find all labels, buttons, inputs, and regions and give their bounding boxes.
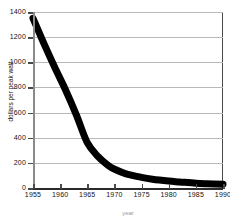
y-tick-mark xyxy=(28,87,33,89)
x-tick-label: 1985 xyxy=(183,191,209,198)
x-tick-label: 1955 xyxy=(20,191,46,198)
chart-figure: 0200400600800100012001400 19551960196519… xyxy=(0,0,230,223)
x-tick-label: 1965 xyxy=(74,191,100,198)
x-tick-label: 1975 xyxy=(129,191,155,198)
x-tick-mark xyxy=(60,184,62,189)
y-tick-label: 1400 xyxy=(0,8,26,15)
plot-area xyxy=(33,12,223,188)
x-tick-mark xyxy=(142,184,144,189)
y-tick-label: 0 xyxy=(0,184,26,191)
x-tick-label: 1970 xyxy=(101,191,127,198)
data-curve xyxy=(33,12,223,188)
y-tick-mark xyxy=(28,12,33,14)
y-tick-mark xyxy=(28,113,33,115)
y-tick-mark xyxy=(28,163,33,165)
x-axis-title: year xyxy=(33,210,223,216)
y-tick-mark xyxy=(28,37,33,39)
y-tick-mark xyxy=(28,138,33,140)
y-axis-line xyxy=(33,12,35,189)
x-tick-mark xyxy=(196,184,198,189)
x-tick-label: 1960 xyxy=(47,191,73,198)
y-tick-mark xyxy=(28,62,33,64)
x-tick-mark xyxy=(114,184,116,189)
y-tick-label: 1200 xyxy=(0,33,26,40)
x-tick-label: 1980 xyxy=(156,191,182,198)
x-tick-mark xyxy=(33,184,35,189)
y-axis-title: dollars per peak watt xyxy=(7,44,14,140)
curve-path xyxy=(33,18,223,184)
x-tick-mark xyxy=(223,184,225,189)
x-tick-label: 1990 xyxy=(210,191,230,198)
x-tick-mark xyxy=(169,184,171,189)
x-tick-mark xyxy=(87,184,89,189)
y-tick-label: 200 xyxy=(0,159,26,166)
